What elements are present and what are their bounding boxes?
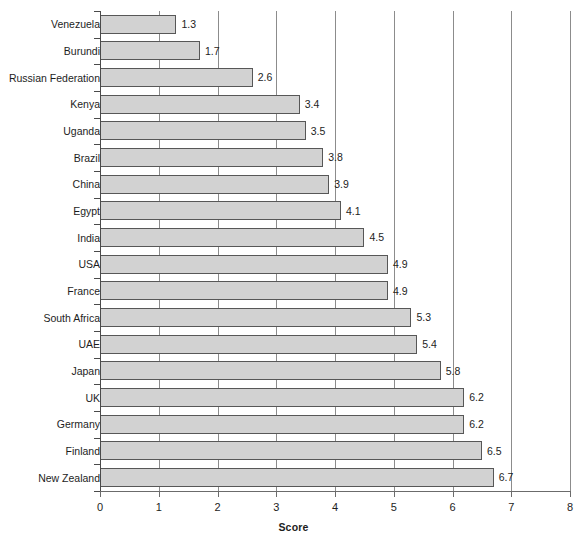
bar-value-label: 4.5 (369, 228, 384, 246)
bar-value-label: 3.5 (311, 122, 326, 140)
y-tick (94, 438, 100, 439)
y-tick (94, 358, 100, 359)
y-tick (94, 304, 100, 305)
bar-value-label: 3.8 (328, 148, 343, 166)
bar[interactable] (100, 41, 200, 60)
category-label: UK (4, 391, 100, 405)
bar[interactable] (100, 15, 176, 34)
x-tick-1 (159, 491, 160, 497)
bar-value-label: 1.3 (181, 15, 196, 33)
x-tick-6 (453, 491, 454, 497)
y-tick (94, 198, 100, 199)
bar-row: 3.9 (100, 171, 570, 198)
bar-value-label: 1.7 (205, 42, 220, 60)
bar-value-label: 5.4 (422, 335, 437, 353)
bar[interactable] (100, 148, 323, 167)
bar[interactable] (100, 68, 253, 87)
bar[interactable] (100, 281, 388, 300)
x-tick-label-4: 4 (332, 501, 338, 513)
bar[interactable] (100, 361, 441, 380)
bar-value-label: 3.9 (334, 175, 349, 193)
bar[interactable] (100, 468, 494, 487)
bar-row: 5.3 (100, 304, 570, 331)
bar[interactable] (100, 388, 464, 407)
y-tick (94, 251, 100, 252)
bar-row: 5.8 (100, 358, 570, 385)
category-label: France (4, 284, 100, 298)
category-label: Egypt (4, 204, 100, 218)
bar[interactable] (100, 201, 341, 220)
bar-row: 5.4 (100, 331, 570, 358)
bar-value-label: 4.9 (393, 255, 408, 273)
y-tick (94, 38, 100, 39)
bar-value-label: 4.9 (393, 282, 408, 300)
y-tick (94, 144, 100, 145)
y-tick (94, 118, 100, 119)
bar-value-label: 2.6 (258, 68, 273, 86)
bar-value-label: 6.5 (487, 442, 502, 460)
x-tick-label-5: 5 (391, 501, 397, 513)
gridline-8 (570, 11, 571, 491)
bar-value-label: 6.7 (499, 468, 514, 486)
x-tick-4 (335, 491, 336, 497)
y-tick (94, 91, 100, 92)
bar-row: 4.9 (100, 251, 570, 278)
bar[interactable] (100, 441, 482, 460)
bar-chart-figure: 1.31.72.63.43.53.83.94.14.54.94.95.35.45… (0, 0, 587, 551)
bar-row: 6.5 (100, 438, 570, 465)
category-label: China (4, 177, 100, 191)
bar-row: 4.1 (100, 198, 570, 225)
y-tick (94, 464, 100, 465)
bar-row: 6.2 (100, 411, 570, 438)
bar[interactable] (100, 228, 364, 247)
y-tick (94, 171, 100, 172)
category-label: Finland (4, 444, 100, 458)
bar[interactable] (100, 121, 306, 140)
category-label: Venezuela (4, 17, 100, 31)
bar-row: 6.7 (100, 464, 570, 491)
x-tick-label-1: 1 (156, 501, 162, 513)
y-tick (94, 331, 100, 332)
bar-row: 3.5 (100, 118, 570, 145)
category-label: UAE (4, 337, 100, 351)
y-tick (94, 384, 100, 385)
bar-row: 2.6 (100, 64, 570, 91)
category-label: Japan (4, 364, 100, 378)
category-label: Russian Federation (4, 71, 100, 85)
bar-value-label: 6.2 (469, 388, 484, 406)
bar-value-label: 5.8 (446, 362, 461, 380)
y-tick (94, 411, 100, 412)
bar-row: 1.7 (100, 38, 570, 65)
category-label: India (4, 231, 100, 245)
category-label: Burundi (4, 44, 100, 58)
bar[interactable] (100, 255, 388, 274)
x-tick-0 (100, 491, 101, 497)
x-tick-label-6: 6 (449, 501, 455, 513)
bar-row: 4.9 (100, 278, 570, 305)
bar[interactable] (100, 95, 300, 114)
x-tick-7 (511, 491, 512, 497)
bar[interactable] (100, 308, 411, 327)
category-label: USA (4, 257, 100, 271)
x-tick-label-2: 2 (214, 501, 220, 513)
y-axis-line (100, 11, 101, 491)
bar-row: 1.3 (100, 11, 570, 38)
bar[interactable] (100, 415, 464, 434)
bar-row: 6.2 (100, 384, 570, 411)
x-tick-label-8: 8 (567, 501, 573, 513)
bar-value-label: 6.2 (469, 415, 484, 433)
y-tick (94, 278, 100, 279)
y-tick (94, 491, 100, 492)
x-tick-label-7: 7 (508, 501, 514, 513)
x-tick-label-0: 0 (97, 501, 103, 513)
bar-value-label: 4.1 (346, 202, 361, 220)
x-tick-5 (394, 491, 395, 497)
x-axis-title: Score (0, 521, 587, 533)
bar[interactable] (100, 175, 329, 194)
category-label: Uganda (4, 124, 100, 138)
chart-bars-layer: 1.31.72.63.43.53.83.94.14.54.94.95.35.45… (100, 11, 570, 491)
bar-value-label: 3.4 (305, 95, 320, 113)
x-tick-3 (276, 491, 277, 497)
x-tick-label-3: 3 (273, 501, 279, 513)
bar[interactable] (100, 335, 417, 354)
